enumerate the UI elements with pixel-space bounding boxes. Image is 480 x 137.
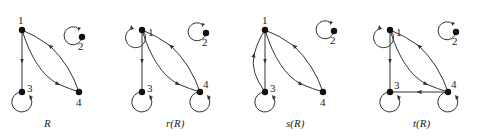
node-3 bbox=[387, 89, 393, 95]
node-label-2: 2 bbox=[202, 36, 208, 48]
node-label-1: 1 bbox=[18, 14, 24, 26]
node-label-2: 2 bbox=[78, 40, 84, 52]
node-label-3: 3 bbox=[147, 82, 153, 94]
caption-rR: r(R) bbox=[166, 117, 185, 130]
node-label-3: 3 bbox=[394, 79, 400, 91]
node-label-3: 3 bbox=[27, 82, 33, 94]
loop-2-arrow-icon bbox=[78, 27, 81, 31]
caption-tR: t(R) bbox=[413, 117, 430, 130]
node-label-1: 1 bbox=[148, 26, 154, 38]
node-1 bbox=[139, 27, 145, 33]
graph-sR: 1 3 4 2 s(R) bbox=[253, 14, 337, 130]
node-label-2: 2 bbox=[452, 35, 458, 47]
loop-1-arrow-icon bbox=[130, 25, 134, 30]
node-label-2: 2 bbox=[330, 34, 336, 46]
graph-rR: 1 3 4 2 r(R) bbox=[126, 23, 211, 130]
node-3 bbox=[19, 89, 25, 95]
graph-R: 1 3 4 2 R bbox=[12, 14, 85, 129]
node-1 bbox=[19, 27, 25, 33]
node-3 bbox=[262, 89, 268, 95]
node-4 bbox=[76, 89, 82, 95]
node-label-4: 4 bbox=[76, 96, 82, 108]
graph-tR: 1 3 4 2 t(R) bbox=[374, 22, 460, 130]
relation-closures-figure: 1 3 4 2 R 1 3 4 2 r(R) bbox=[0, 0, 480, 137]
node-3 bbox=[139, 89, 145, 95]
node-label-1: 1 bbox=[396, 26, 402, 38]
node-label-3: 3 bbox=[270, 82, 276, 94]
caption-sR: s(R) bbox=[286, 117, 305, 130]
node-1 bbox=[387, 27, 393, 33]
loop-1-arrow-icon bbox=[378, 25, 382, 30]
node-label-1: 1 bbox=[262, 14, 268, 26]
edge-3-1 bbox=[253, 30, 265, 92]
caption-R: R bbox=[43, 117, 51, 129]
loop-2-arrow-icon bbox=[330, 21, 333, 25]
node-label-4: 4 bbox=[451, 78, 457, 90]
loop-2-arrow-icon bbox=[452, 22, 455, 26]
node-1 bbox=[262, 27, 268, 33]
node-label-4: 4 bbox=[203, 78, 209, 90]
loop-2-arrow-icon bbox=[202, 23, 205, 27]
node-4 bbox=[320, 89, 326, 95]
node-label-4: 4 bbox=[320, 96, 326, 108]
